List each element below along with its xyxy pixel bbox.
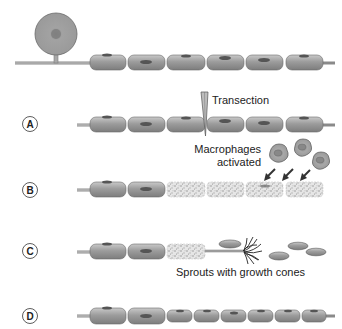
- stage-a: A Transection: [23, 92, 336, 136]
- transection-label: Transection: [212, 94, 269, 106]
- svg-text:B: B: [26, 185, 33, 196]
- svg-text:C: C: [26, 246, 33, 257]
- myelin-segments: [90, 53, 323, 70]
- macrophages-label-line1: Macrophages: [194, 143, 261, 155]
- svg-text:D: D: [26, 311, 33, 322]
- stage-c: C Sprouts with growth cones: [23, 237, 327, 278]
- intact-neuron: [15, 13, 335, 70]
- stage-d: D: [23, 306, 336, 324]
- sprouts-label: Sprouts with growth cones: [176, 266, 306, 278]
- macrophages-label-line2: activated: [217, 156, 261, 168]
- nucleus: [51, 29, 61, 39]
- degenerating-myelin: [167, 182, 323, 197]
- growth-cone-sprouts: [243, 237, 262, 264]
- regenerated-myelin-segments: [167, 310, 326, 322]
- nerve-regeneration-diagram: A Transection B: [0, 0, 342, 329]
- svg-text:A: A: [26, 119, 33, 130]
- arrow-icons: [264, 169, 310, 181]
- macrophages: [270, 139, 330, 169]
- stage-b: B Macrophages activated: [23, 139, 330, 198]
